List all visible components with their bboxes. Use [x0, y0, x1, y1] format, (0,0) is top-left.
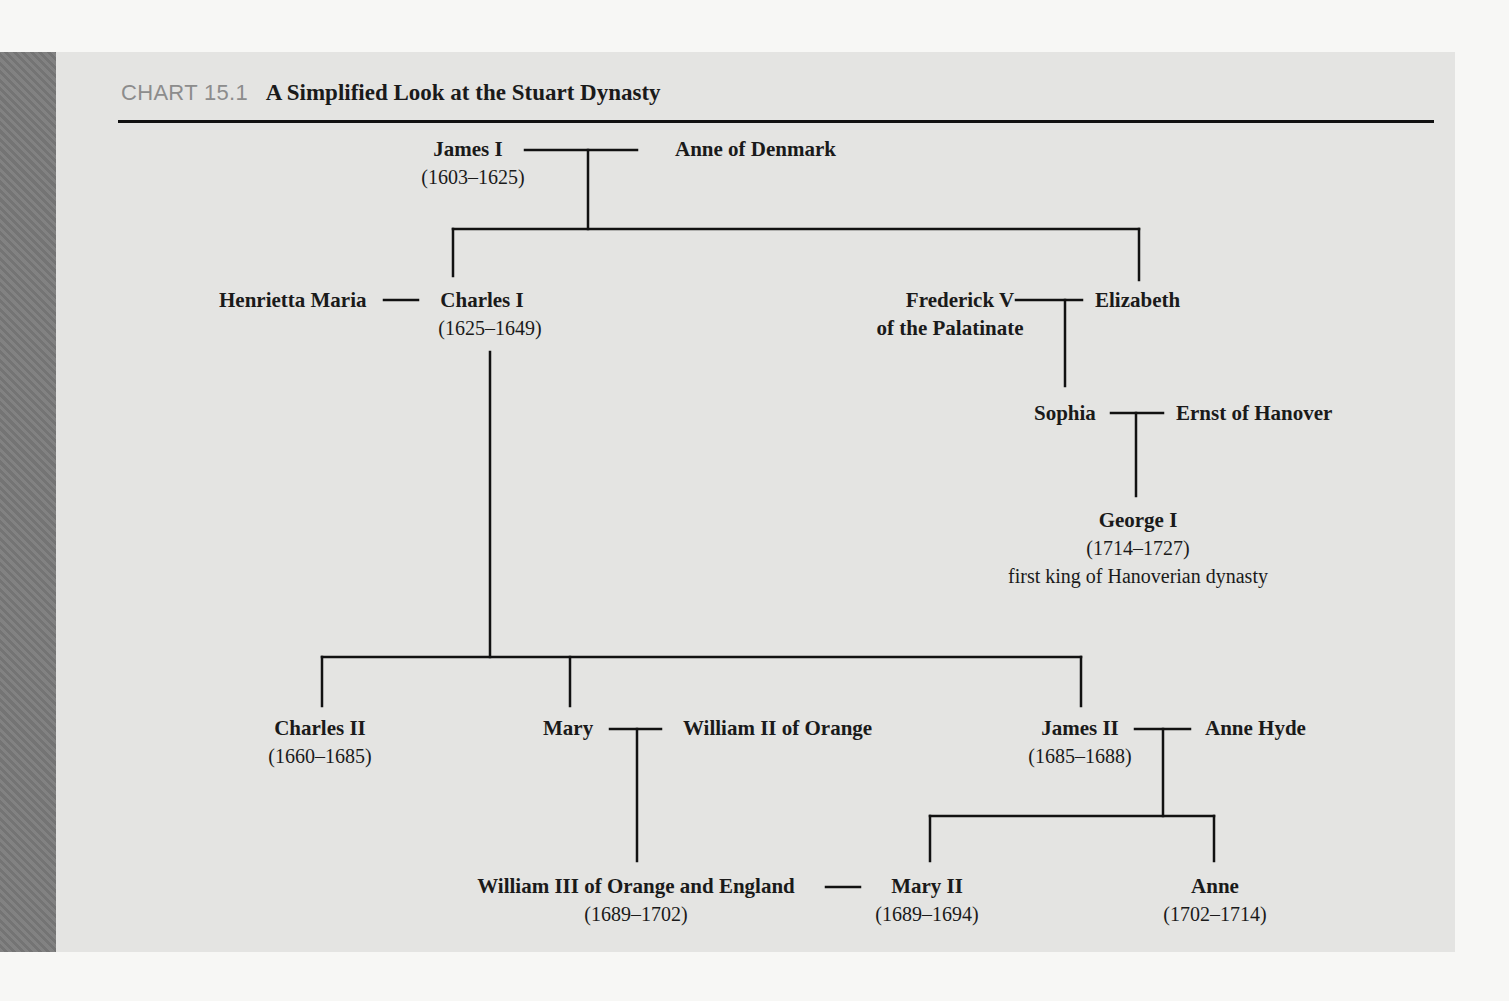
person-anne: Anne (1702–1714)	[1150, 872, 1280, 928]
reign-years: (1625–1649)	[410, 314, 570, 342]
person-anne-hyde: Anne Hyde	[1205, 714, 1306, 742]
person-william-iii: William III of Orange and England (1689–…	[466, 872, 806, 928]
person-frederick-v: Frederick V of the Palatinate	[860, 286, 1040, 342]
person-name: Charles I	[394, 286, 570, 314]
person-name: Anne of Denmark	[675, 135, 836, 163]
person-name: Ernst of Hanover	[1176, 399, 1332, 427]
person-mary: Mary	[543, 714, 593, 742]
reign-years: (1660–1685)	[250, 742, 390, 770]
reign-years: (1689–1694)	[862, 900, 992, 928]
person-henrietta-maria: Henrietta Maria	[219, 286, 367, 314]
reign-years: (1702–1714)	[1150, 900, 1280, 928]
person-ernst-of-hanover: Ernst of Hanover	[1176, 399, 1332, 427]
reign-years: (1714–1727)	[988, 534, 1288, 562]
person-elizabeth: Elizabeth	[1095, 286, 1180, 314]
person-george-i: George I (1714–1727) first king of Hanov…	[988, 506, 1288, 590]
person-name: George I	[988, 506, 1288, 534]
person-charles-ii: Charles II (1660–1685)	[250, 714, 390, 770]
person-name: Mary II	[862, 872, 992, 900]
person-name: William II of Orange	[683, 714, 872, 742]
person-charles-i: Charles I (1625–1649)	[410, 286, 570, 342]
person-name: Sophia	[1034, 399, 1096, 427]
person-name: Henrietta Maria	[219, 286, 367, 314]
reign-years: (1603–1625)	[408, 163, 538, 191]
person-name: William III of Orange and England	[466, 872, 806, 900]
person-name: Anne Hyde	[1205, 714, 1306, 742]
person-name: Frederick V	[880, 286, 1040, 314]
person-james-i: James I (1603–1625)	[398, 135, 538, 191]
person-name: James II	[1010, 714, 1150, 742]
person-name: Anne	[1150, 872, 1280, 900]
reign-years: (1685–1688)	[1010, 742, 1150, 770]
person-name: Charles II	[250, 714, 390, 742]
person-name: James I	[398, 135, 538, 163]
person-james-ii: James II (1685–1688)	[1010, 714, 1150, 770]
person-name: Elizabeth	[1095, 286, 1180, 314]
person-william-ii-of-orange: William II of Orange	[683, 714, 872, 742]
reign-years: (1689–1702)	[466, 900, 806, 928]
person-note: first king of Hanoverian dynasty	[988, 562, 1288, 590]
person-anne-of-denmark: Anne of Denmark	[675, 135, 836, 163]
person-sophia: Sophia	[1034, 399, 1096, 427]
person-mary-ii: Mary II (1689–1694)	[862, 872, 992, 928]
person-name: Mary	[543, 714, 593, 742]
person-name-line2: of the Palatinate	[860, 314, 1040, 342]
